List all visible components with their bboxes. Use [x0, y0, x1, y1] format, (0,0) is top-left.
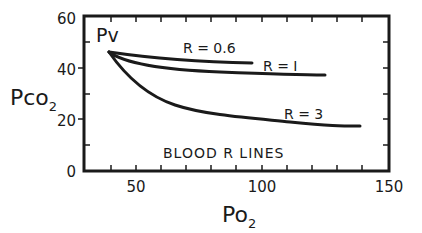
y-axis-title: Pco2: [10, 85, 57, 114]
y-tick-40: 40: [57, 61, 76, 79]
r-1-label: R = I: [263, 58, 298, 74]
y-tick-60: 60: [57, 10, 76, 28]
y-tick-0: 0: [66, 163, 76, 181]
pv-label: Pv: [96, 24, 119, 46]
blood-r-lines-chart: 60 40 20 0 50 100 150 Pco2 Po2 Pv R = 0.…: [0, 0, 422, 233]
y-ticks: [78, 42, 389, 145]
y-tick-20: 20: [57, 112, 76, 130]
r-3-label: R = 3: [284, 106, 323, 122]
x-tick-150: 150: [375, 178, 404, 196]
x-tick-100: 100: [248, 178, 277, 196]
chart-caption: BLOOD R LINES: [163, 145, 285, 161]
r-0-6-label: R = 0.6: [183, 40, 236, 56]
x-tick-50: 50: [126, 178, 145, 196]
x-axis-title: Po2: [222, 202, 256, 231]
